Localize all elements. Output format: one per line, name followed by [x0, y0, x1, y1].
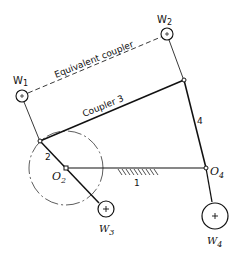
joint-b: [182, 78, 186, 82]
o4-label: O4: [210, 165, 224, 180]
linkage-diagram: Equivalent coupler Coupler 3 2 1 4 O2 O4…: [0, 0, 240, 254]
w4-label: W4: [207, 235, 222, 249]
mass-w3: [98, 201, 114, 217]
link-1-label: 1: [134, 178, 140, 188]
w2-connector-line: [169, 40, 183, 78]
joint-a: [38, 139, 42, 143]
link-4-label: 4: [197, 116, 203, 126]
pivot-o2: [64, 166, 68, 170]
equivalent-coupler-label: Equivalent coupler: [53, 39, 135, 80]
mass-w2: [161, 28, 173, 40]
pivot-o4: [204, 166, 208, 170]
coupler-link: [40, 80, 184, 141]
equivalent-coupler-line: [28, 37, 161, 93]
w3-label: W3: [99, 223, 114, 237]
ground-hatching: [118, 169, 158, 175]
o2-label: O2: [52, 170, 66, 185]
w1-connector-line: [24, 102, 39, 139]
w2-label: W2: [157, 14, 172, 27]
link-2-label: 2: [45, 152, 51, 162]
w1-label: W1: [13, 75, 28, 88]
mass-w1: [16, 90, 28, 102]
crank-link: [40, 141, 99, 203]
mass-w4: [202, 203, 228, 229]
